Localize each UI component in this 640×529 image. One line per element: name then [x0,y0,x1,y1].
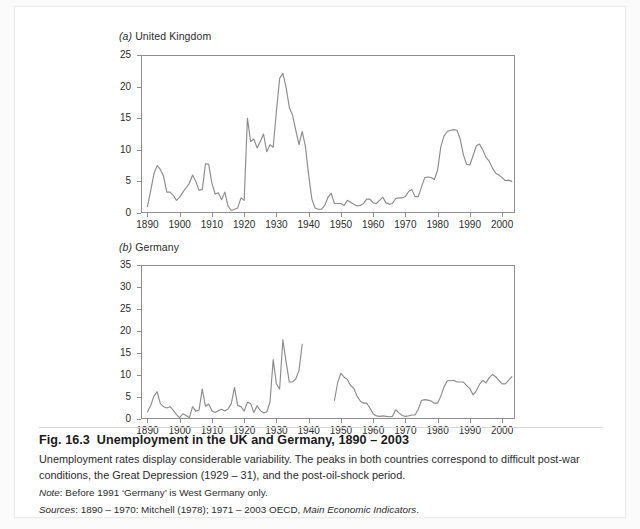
figure-heading: Fig. 16.3Unemployment in the UK and Germ… [39,433,611,447]
y-tick-label-germany-15: 15 [105,348,131,358]
figure-title: Unemployment in the UK and Germany, 1890… [97,433,409,447]
x-tick-germany-1930 [276,419,277,423]
x-tick-germany-1890 [147,419,148,423]
y-tick-label-germany-5: 5 [105,392,131,402]
figure-card: (a) United Kingdom 051015202518901900191… [14,6,626,518]
figure-sources: Sources: 1890 – 1970: Mitchell (1978); 1… [39,503,611,517]
sources-tail: . [416,504,419,515]
note-text: : Before 1991 ‘Germany’ is West Germany … [60,487,268,498]
x-tick-germany-1910 [212,419,213,423]
x-tick-germany-1950 [341,419,342,423]
x-tick-germany-1900 [180,419,181,423]
figure-description: Unemployment rates display considerable … [39,452,591,483]
data-line-germany-1 [334,373,511,417]
x-tick-germany-1990 [470,419,471,423]
sources-text: : 1890 – 1970: Mitchell (1978); 1971 – 2… [75,504,303,515]
figure-note: Note: Before 1991 ‘Germany’ is West Germ… [39,486,611,500]
series-line-germany [15,7,640,477]
y-tick-germany-35 [137,265,141,266]
note-label: Note [39,487,60,498]
y-tick-germany-30 [137,287,141,288]
caption-divider [39,427,603,428]
y-tick-germany-10 [137,375,141,376]
y-tick-label-germany-35: 35 [105,260,131,270]
y-tick-germany-25 [137,309,141,310]
x-tick-germany-1920 [244,419,245,423]
y-tick-label-germany-20: 20 [105,326,131,336]
y-tick-germany-20 [137,331,141,332]
x-tick-germany-1940 [309,419,310,423]
data-line-germany [147,340,302,418]
x-tick-germany-2000 [502,419,503,423]
y-tick-germany-5 [137,397,141,398]
x-tick-germany-1960 [373,419,374,423]
y-tick-germany-0 [137,419,141,420]
sources-publication: Main Economic Indicators [303,504,416,515]
y-tick-label-germany-10: 10 [105,370,131,380]
sources-label: Sources [39,504,75,515]
y-tick-germany-15 [137,353,141,354]
caption-block: Fig. 16.3Unemployment in the UK and Germ… [39,433,611,517]
figure-label: Fig. 16.3 [39,433,90,447]
figure-page: (a) United Kingdom 051015202518901900191… [0,0,640,529]
y-tick-label-germany-30: 30 [105,282,131,292]
y-tick-label-germany-25: 25 [105,304,131,314]
y-tick-label-germany-0: 0 [105,414,131,424]
x-tick-germany-1980 [438,419,439,423]
x-tick-germany-1970 [405,419,406,423]
